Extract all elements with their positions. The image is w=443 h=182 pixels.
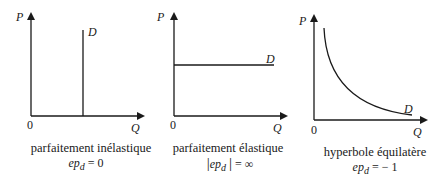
elasticity-formula: epd = − 1: [353, 160, 398, 176]
x-axis-label: Q: [273, 121, 282, 136]
origin-label: 0: [170, 118, 176, 133]
y-axis-label: P: [299, 14, 306, 29]
origin-label: 0: [27, 118, 33, 133]
y-axis-label: P: [16, 10, 23, 25]
caption: parfaitement élastique: [173, 141, 284, 156]
elasticity-formula: |epd | = ∞: [207, 155, 254, 173]
caption: parfaitement inélastique: [31, 141, 151, 156]
curve-label: D: [88, 25, 97, 40]
curve-label: D: [266, 52, 275, 67]
x-axis-label: Q: [131, 121, 140, 136]
curve-label: D: [404, 102, 413, 117]
elasticity-formula: epd = 0: [68, 156, 103, 172]
y-axis-label: P: [157, 10, 164, 25]
diagram-inelastic: [31, 14, 143, 116]
caption: hyperbole équilatère: [324, 145, 426, 160]
x-axis-label: Q: [413, 125, 422, 140]
demand-curve-hyperbola: [324, 28, 412, 115]
origin-label: 0: [311, 123, 317, 138]
